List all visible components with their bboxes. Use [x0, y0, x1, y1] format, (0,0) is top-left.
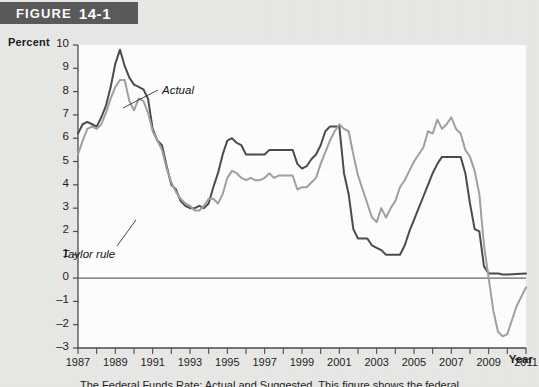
y-tick-label: 9 — [45, 60, 69, 72]
chart-plot — [0, 24, 539, 364]
x-tick-label: 2001 — [319, 356, 359, 368]
y-tick-label: 0 — [45, 270, 69, 282]
figure-banner-word: FIGURE — [16, 6, 72, 21]
x-tick-label: 1989 — [95, 356, 135, 368]
y-tick-label: –3 — [45, 340, 69, 352]
figure-page: FIGURE 14-1 Percent 109876543210–1–2–3 1… — [0, 0, 539, 387]
x-tick-label: 2009 — [469, 356, 509, 368]
series-layer — [78, 50, 526, 337]
x-axis-title: Year — [509, 353, 533, 365]
x-tick-label: 2005 — [394, 356, 434, 368]
y-tick-label: –2 — [45, 317, 69, 329]
y-tick-label: 7 — [45, 107, 69, 119]
y-tick-label: 2 — [45, 223, 69, 235]
y-tick-label: 4 — [45, 177, 69, 189]
annotation-leader-lines — [117, 90, 158, 246]
y-tick-label: 10 — [45, 37, 69, 49]
x-tick-label: 1997 — [245, 356, 285, 368]
y-tick-label: 6 — [45, 130, 69, 142]
y-tick-label: 5 — [45, 154, 69, 166]
figure-banner-number: 14-1 — [79, 5, 111, 22]
y-tick-label: –1 — [45, 293, 69, 305]
y-tick-label: 3 — [45, 200, 69, 212]
figure-banner: FIGURE 14-1 — [0, 2, 138, 24]
x-tick-label: 1991 — [133, 356, 173, 368]
x-tick-label: 1987 — [58, 356, 98, 368]
y-tick-label: 8 — [45, 84, 69, 96]
x-tick-label: 1995 — [207, 356, 247, 368]
axis-layer — [73, 45, 526, 354]
series-annotation-actual: Actual — [162, 84, 194, 96]
series-annotation-taylor-rule: Taylor rule — [62, 248, 115, 260]
chart-area: Percent 109876543210–1–2–3 1987198919911… — [0, 24, 539, 364]
figure-caption: The Federal Funds Rate: Actual and Sugge… — [0, 378, 539, 387]
x-tick-label: 1993 — [170, 356, 210, 368]
x-tick-label: 1999 — [282, 356, 322, 368]
x-tick-label: 2007 — [431, 356, 471, 368]
x-tick-label: 2003 — [357, 356, 397, 368]
